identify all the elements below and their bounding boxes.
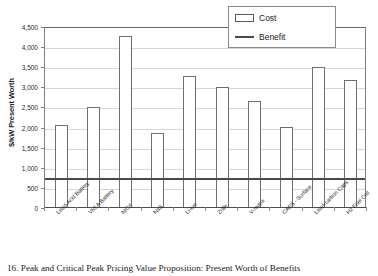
y-tick-label: 1,000 — [22, 164, 38, 171]
bar — [312, 67, 325, 208]
bar — [248, 101, 261, 208]
x-axis-labels: Lead-Acid BatteryVRLA BatteryNiCdNaSLi-I… — [44, 211, 378, 259]
y-tick-label: 1,500 — [22, 144, 38, 151]
bar — [280, 127, 293, 208]
legend-label-benefit: Benefit — [259, 32, 285, 42]
bar — [55, 125, 68, 208]
plot-area — [44, 27, 366, 208]
bar — [87, 107, 100, 208]
y-tick-label: 3,500 — [22, 64, 38, 71]
y-tick-label: 2,500 — [22, 104, 38, 111]
legend-item-benefit: Benefit — [235, 31, 285, 43]
chart-legend: Cost Benefit — [228, 6, 336, 48]
bar — [151, 133, 164, 208]
y-axis-ticks: 05001,0001,5002,0002,5003,0003,5004,0004… — [0, 27, 44, 208]
figure-caption: 16. Peak and Critical Peak Pricing Value… — [7, 263, 375, 273]
y-tick-label: 0 — [34, 205, 38, 212]
y-tick-label: 3,000 — [22, 84, 38, 91]
chart-figure: $/kW Present Worth 05001,0001,5002,0002,… — [0, 0, 378, 276]
gridline — [45, 48, 365, 49]
bar — [183, 76, 196, 208]
legend-swatch-cost-icon — [235, 14, 254, 22]
bar — [344, 80, 357, 208]
legend-swatch-benefit-icon — [235, 36, 254, 38]
legend-item-cost: Cost — [235, 12, 276, 24]
legend-label-cost: Cost — [259, 13, 276, 23]
bar — [119, 36, 132, 208]
y-tick-label: 4,500 — [22, 24, 38, 31]
y-tick-label: 500 — [27, 184, 38, 191]
bar — [216, 87, 229, 208]
y-tick-label: 4,000 — [22, 44, 38, 51]
y-tick-label: 2,000 — [22, 124, 38, 131]
benefit-line-series — [45, 178, 365, 180]
